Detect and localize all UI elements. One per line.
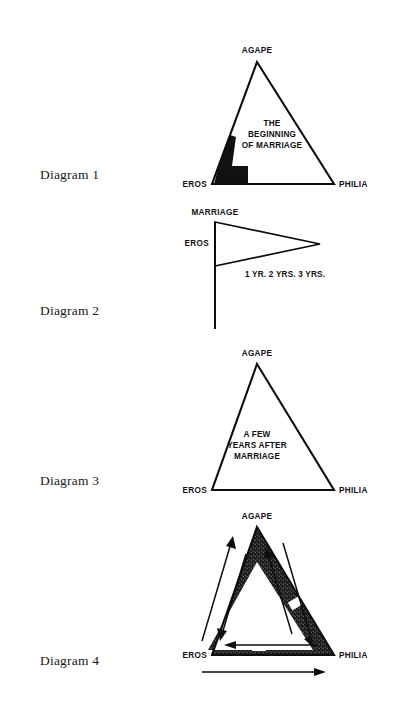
diagram-4-figure: AGAPE EROS PHILIA <box>183 512 368 676</box>
diagram-2-inner-line-1: 1 YR. 2 YRS. 3 YRS. <box>245 270 325 279</box>
diagram-3-vertex-top: AGAPE <box>242 349 273 358</box>
diagram-1-inner-line-2: BEGINNING <box>248 130 296 139</box>
diagram-2-figure: MARRIAGE EROS 1 YR. 2 YRS. 3 YRS. <box>185 208 326 329</box>
diagram-3-inner-line-3: MARRIAGE <box>234 452 281 461</box>
diagram-4-vertex-top: AGAPE <box>242 512 273 521</box>
diagram-3-triangle <box>212 364 334 490</box>
diagram-3-inner-line-1: A FEW <box>243 430 270 439</box>
diagram-4-arrow-bottom-outer <box>202 668 326 676</box>
diagrams-canvas: AGAPE EROS PHILIA THE BEGINNING OF MARRI… <box>0 0 396 716</box>
diagram-4-gap-bottom <box>252 641 266 651</box>
diagram-1-vertex-right: PHILIA <box>339 180 368 189</box>
diagram-4-arrow-bottom-inner <box>224 641 318 649</box>
diagram-1-figure: AGAPE EROS PHILIA THE BEGINNING OF MARRI… <box>183 46 368 189</box>
diagram-3-vertex-right: PHILIA <box>339 486 368 495</box>
diagram-2-vertex-top: MARRIAGE <box>192 208 239 217</box>
diagram-1-vertex-left: EROS <box>183 180 208 189</box>
diagram-4-vertex-right: PHILIA <box>339 651 368 660</box>
diagram-1-inner-line-1: THE <box>264 119 281 128</box>
diagram-3-inner-line-2: YEARS AFTER <box>227 441 287 450</box>
diagram-4-vertex-left: EROS <box>183 651 208 660</box>
diagram-1-inner-line-3: OF MARRIAGE <box>242 141 303 150</box>
diagram-page: Diagram 1 Diagram 2 Diagram 3 Diagram 4 … <box>0 0 396 716</box>
diagram-1-vertex-top: AGAPE <box>242 46 273 55</box>
diagram-4-arrow-left-outer <box>202 536 236 641</box>
diagram-3-figure: AGAPE EROS PHILIA A FEW YEARS AFTER MARR… <box>183 349 368 495</box>
diagram-3-vertex-left: EROS <box>183 486 208 495</box>
diagram-2-pennant <box>215 222 320 266</box>
diagram-2-vertex-left: EROS <box>185 239 210 248</box>
